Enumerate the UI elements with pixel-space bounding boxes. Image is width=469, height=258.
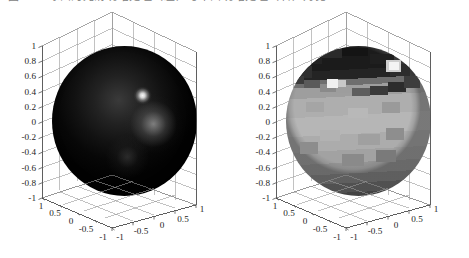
z-tick: -0.6 — [21, 163, 36, 173]
y-tick: -0.5 — [368, 226, 383, 236]
x-tick: 1 — [39, 201, 44, 211]
y-tick: 1 — [200, 204, 205, 214]
z-tick: -0.2 — [255, 132, 270, 142]
z-tick: 0 — [31, 117, 36, 127]
z-tick: -0.8 — [21, 178, 36, 188]
y-tick: 0.5 — [411, 214, 423, 224]
y-tick: 0.5 — [177, 214, 189, 224]
x-tick: 0 — [303, 216, 308, 226]
z-tick: 0.8 — [25, 56, 37, 66]
z-tick: 1 — [265, 41, 270, 51]
figure-container: 1 0.8 0.6 0.4 0.2 0 -0.2 -0.4 -0.6 -0.8 … — [0, 0, 469, 258]
x-tick: 0.5 — [49, 208, 61, 218]
z-tick: 0.2 — [25, 102, 37, 112]
plot-panel-left[interactable]: 1 0.8 0.6 0.4 0.2 0 -0.2 -0.4 -0.6 -0.8 … — [0, 0, 235, 258]
z-tick: -0.4 — [255, 147, 270, 157]
y-tick: 1 — [434, 204, 439, 214]
z-tick: -1 — [28, 193, 36, 203]
z-tick: 1 — [31, 41, 36, 51]
x-tick: 1 — [273, 201, 278, 211]
plot-panel-right[interactable]: 1 0.8 0.6 0.4 0.2 0 -0.2 -0.4 -0.6 -0.8 … — [234, 0, 469, 258]
axes-floor-and-ticks-left: 1 0.8 0.6 0.4 0.2 0 -0.2 -0.4 -0.6 -0.8 … — [0, 0, 235, 258]
z-tick: 0.8 — [259, 56, 271, 66]
y-tick: -0.5 — [134, 226, 149, 236]
z-tick: -0.8 — [255, 178, 270, 188]
x-tick: -1 — [333, 232, 341, 242]
z-axis-tick-labels-left: 1 0.8 0.6 0.4 0.2 0 -0.2 -0.4 -0.6 -0.8 … — [21, 41, 36, 203]
z-tick: -0.4 — [21, 147, 36, 157]
x-tick: 0.5 — [283, 208, 295, 218]
x-tick: -0.5 — [313, 224, 328, 234]
z-tick: -0.6 — [255, 163, 270, 173]
z-tick: 0.6 — [25, 71, 37, 81]
z-tick: 0.6 — [259, 71, 271, 81]
z-tick: 0 — [265, 117, 270, 127]
z-tick: 0.2 — [259, 102, 271, 112]
y-tick: 0 — [160, 220, 165, 230]
z-tick: 0.4 — [259, 87, 271, 97]
axes-floor-and-ticks-right: 1 0.8 0.6 0.4 0.2 0 -0.2 -0.4 -0.6 -0.8 … — [234, 0, 469, 258]
z-tick: 0.4 — [25, 87, 37, 97]
y-tick: -1 — [116, 232, 124, 242]
z-tick: -1 — [262, 193, 270, 203]
x-tick: 0 — [69, 216, 74, 226]
z-axis-tick-labels-right: 1 0.8 0.6 0.4 0.2 0 -0.2 -0.4 -0.6 -0.8 … — [255, 41, 270, 203]
y-tick: 0 — [394, 220, 399, 230]
x-tick: -0.5 — [79, 224, 94, 234]
y-tick: -1 — [350, 232, 358, 242]
x-tick: -1 — [99, 232, 107, 242]
z-tick: -0.2 — [21, 132, 36, 142]
